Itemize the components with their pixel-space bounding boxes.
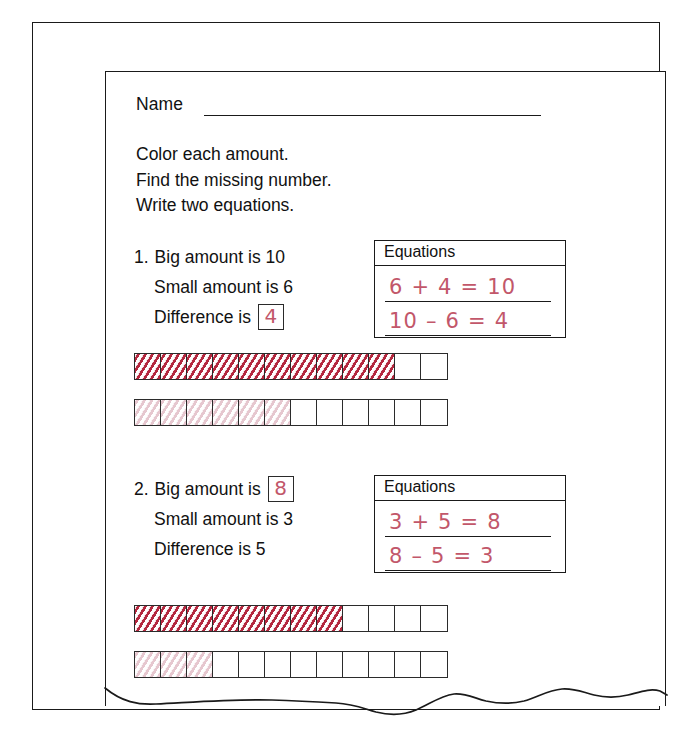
name-write-in-line[interactable] [204,115,541,116]
problem-2-big-amount-strip[interactable] [134,605,448,632]
strip-cell-filled[interactable] [239,400,265,425]
instruction-line-1: Color each amount. [136,142,332,168]
problem-2-equation-2-text: 8 – 5 = 3 [389,544,495,568]
strip-cell-empty[interactable] [317,652,343,677]
strip-cell-empty[interactable] [369,400,395,425]
strip-cell-filled[interactable] [317,354,343,379]
name-label: Name [136,94,183,115]
strip-cell-empty[interactable] [395,354,421,379]
strip-cell-filled[interactable] [161,606,187,631]
strip-cell-filled[interactable] [135,354,161,379]
problem-2-big-amount-answer-value: 8 [269,473,293,503]
problem-1-difference-label: Difference is [154,302,251,332]
strip-cell-empty[interactable] [421,354,447,379]
strip-cell-filled[interactable] [135,400,161,425]
strip-cell-empty[interactable] [343,400,369,425]
strip-cell-empty[interactable] [343,652,369,677]
problem-2-equation-line-1[interactable]: 3 + 5 = 8 [385,502,551,537]
problem-2-number: 2. [134,474,149,504]
problem-2-equations-title: Equations [384,478,455,496]
strip-cell-filled[interactable] [369,354,395,379]
strip-cell-empty[interactable] [395,400,421,425]
strip-cell-filled[interactable] [187,354,213,379]
strip-cell-filled[interactable] [161,354,187,379]
problem-1-equation-1-text: 6 + 4 = 10 [389,275,516,299]
equations-title-rule [375,500,565,501]
instructions-block: Color each amount. Find the missing numb… [136,142,332,219]
strip-cell-empty[interactable] [395,652,421,677]
problem-2-big-amount-answer-box[interactable]: 8 [268,476,294,502]
strip-cell-filled[interactable] [213,606,239,631]
instruction-line-3: Write two equations. [136,193,332,219]
problem-1-big-amount-strip[interactable] [134,353,448,380]
strip-cell-filled[interactable] [161,400,187,425]
strip-cell-filled[interactable] [187,652,213,677]
strip-cell-filled[interactable] [187,400,213,425]
problem-1-line-small: Small amount is 6 [134,272,293,302]
strip-cell-filled[interactable] [291,354,317,379]
strip-cell-filled[interactable] [265,606,291,631]
problem-2-small-amount-text: Small amount is 3 [154,504,293,534]
strip-cell-filled[interactable] [161,652,187,677]
strip-cell-filled[interactable] [213,400,239,425]
problem-2-small-amount-strip[interactable] [134,651,448,678]
problem-2-line-small: Small amount is 3 [134,504,294,534]
problem-1-small-amount-text: Small amount is 6 [154,272,293,302]
strip-cell-filled[interactable] [317,606,343,631]
problem-1-equation-line-2[interactable]: 10 – 6 = 4 [385,301,551,336]
strip-cell-filled[interactable] [187,606,213,631]
strip-cell-filled[interactable] [239,354,265,379]
problem-1-difference-answer-box[interactable]: 4 [258,304,284,330]
problem-1-equations-box: Equations 6 + 4 = 10 10 – 6 = 4 [374,240,566,338]
strip-cell-empty[interactable] [291,652,317,677]
problem-1-line-big: 1. Big amount is 10 [134,242,293,272]
strip-cell-filled[interactable] [265,354,291,379]
strip-cell-filled[interactable] [239,606,265,631]
strip-cell-filled[interactable] [265,400,291,425]
strip-cell-empty[interactable] [395,606,421,631]
problem-2-difference-text: Difference is 5 [154,534,266,564]
strip-cell-empty[interactable] [213,652,239,677]
problem-1-prompt: 1. Big amount is 10 Small amount is 6 Di… [134,242,293,332]
strip-cell-empty[interactable] [265,652,291,677]
equations-title-rule [375,265,565,266]
torn-paper-edge [104,686,669,720]
problem-2-equation-line-2[interactable]: 8 – 5 = 3 [385,536,551,571]
problem-1-equations-title: Equations [384,243,455,261]
strip-cell-empty[interactable] [421,400,447,425]
problem-2-big-amount-label: Big amount is [149,474,261,504]
problem-1-small-amount-strip[interactable] [134,399,448,426]
problem-1-equation-2-text: 10 – 6 = 4 [389,309,509,333]
strip-cell-empty[interactable] [369,652,395,677]
strip-cell-filled[interactable] [343,354,369,379]
problem-2-line-difference: Difference is 5 [134,534,294,564]
problem-2-prompt: 2. Big amount is 8 Small amount is 3 Dif… [134,474,294,564]
problem-1-difference-answer-value: 4 [259,301,283,331]
instruction-line-2: Find the missing number. [136,168,332,194]
strip-cell-empty[interactable] [421,652,447,677]
problem-2-equation-1-text: 3 + 5 = 8 [389,510,502,534]
problem-1-big-amount-text: Big amount is 10 [149,242,285,272]
strip-cell-empty[interactable] [291,400,317,425]
strip-cell-empty[interactable] [239,652,265,677]
strip-cell-empty[interactable] [369,606,395,631]
problem-1-line-difference: Difference is 4 [134,302,293,332]
outer-border-frame: Name Color each amount. Find the missing… [32,22,660,710]
problem-2-line-big: 2. Big amount is 8 [134,474,294,504]
strip-cell-filled[interactable] [291,606,317,631]
strip-cell-filled[interactable] [213,354,239,379]
name-row: Name [136,94,596,120]
problem-2-equations-box: Equations 3 + 5 = 8 8 – 5 = 3 [374,475,566,573]
problem-1-number: 1. [134,242,149,272]
worksheet-page: Name Color each amount. Find the missing… [105,71,666,706]
problem-1-equation-line-1[interactable]: 6 + 4 = 10 [385,267,551,302]
strip-cell-empty[interactable] [343,606,369,631]
strip-cell-filled[interactable] [135,606,161,631]
strip-cell-empty[interactable] [317,400,343,425]
strip-cell-filled[interactable] [135,652,161,677]
strip-cell-empty[interactable] [421,606,447,631]
